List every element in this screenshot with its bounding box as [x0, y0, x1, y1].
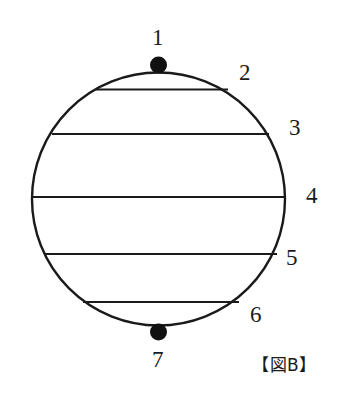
point-label-6: 6 — [250, 303, 262, 326]
figure-caption: 【図B】 — [252, 355, 317, 375]
circle-with-chords-drawing — [0, 0, 338, 406]
point-label-1: 1 — [152, 26, 164, 49]
outer-circle — [32, 73, 285, 326]
point-dot-1 — [150, 57, 167, 74]
point-dot-7 — [150, 324, 167, 341]
point-label-3: 3 — [289, 116, 301, 139]
point-label-5: 5 — [286, 246, 298, 269]
point-label-2: 2 — [239, 61, 251, 84]
point-label-7: 7 — [152, 348, 164, 371]
figure-diagram: 1 2 3 4 5 6 7 【図B】 — [0, 0, 338, 406]
point-label-4: 4 — [306, 184, 318, 207]
